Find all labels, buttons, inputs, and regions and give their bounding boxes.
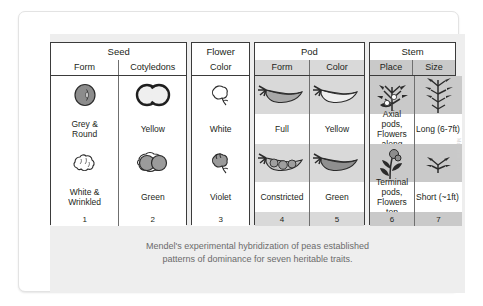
trait-label-short-stem: Short (~1ft)	[415, 182, 462, 212]
figure-caption: Mendel's experimental hybridization of p…	[50, 240, 465, 266]
violet-flower-icon	[192, 144, 249, 182]
subheader-stem-size: Size	[412, 60, 455, 75]
yellow-cotyledons-icon	[119, 76, 186, 114]
figure-card: Seed Form Cotyledons Gr	[18, 11, 459, 292]
trait-number-6: 6	[370, 212, 414, 226]
caption-line-2: patterns of dominance for seven heritabl…	[50, 253, 465, 266]
subheader-row-seed: Form Cotyledons	[51, 60, 186, 76]
subheader-seed-cotyledons: Cotyledons	[118, 60, 186, 75]
trait-label-white-flower: White	[192, 114, 249, 144]
trait-column-pod-color: Yellow Green 5	[309, 76, 364, 226]
trait-column-stem-size: Long (6-7ft) Short (~1ft) 7	[414, 76, 462, 226]
trait-group-stem: Stem Place Size	[369, 42, 456, 225]
trait-column-seed-cotyledons: Yellow Green 2	[118, 76, 186, 226]
figure-page: Seed Form Cotyledons Gr	[0, 0, 483, 306]
green-pod-icon	[310, 144, 364, 182]
trait-label-grey-round: Grey & Round	[51, 114, 118, 144]
subheader-seed-form: Form	[51, 60, 118, 75]
short-plant-icon	[415, 144, 462, 182]
trait-group-pod: Pod Form Color Full	[254, 42, 365, 225]
full-pod-icon	[255, 76, 309, 114]
trait-label-white-wrinkled: White & Wrinkled	[51, 182, 118, 212]
subheader-flower-color: Color	[192, 60, 249, 75]
trait-label-long-stem: Long (6-7ft)	[415, 114, 462, 144]
yellow-pod-icon	[310, 76, 364, 114]
tall-plant-icon	[415, 76, 462, 114]
trait-number-3: 3	[192, 212, 249, 226]
group-title-stem: Stem	[370, 43, 455, 60]
group-title-seed: Seed	[51, 43, 186, 60]
trait-label-terminal-pods: Terminal pods, Flowers top	[370, 182, 414, 212]
round-seed-icon	[51, 76, 118, 114]
trait-label-full-pod: Full	[255, 114, 309, 144]
trait-groups: Seed Form Cotyledons Gr	[50, 42, 456, 225]
constricted-pod-icon	[255, 144, 309, 182]
trait-column-seed-form: Grey & Round White & Wrinkled 1	[51, 76, 118, 226]
subheader-row-flower: Color	[192, 60, 249, 76]
trait-label-violet-flower: Violet	[192, 182, 249, 212]
white-flower-icon	[192, 76, 249, 114]
trait-label-axial-pods: Axial pods, Flowers along	[370, 114, 414, 144]
subheader-pod-form: Form	[255, 60, 309, 75]
trait-group-flower: Flower Color White	[191, 42, 250, 225]
group-title-pod: Pod	[255, 43, 364, 60]
group-title-flower: Flower	[192, 43, 249, 60]
trait-number-7: 7	[415, 212, 462, 226]
subheader-row-pod: Form Color	[255, 60, 364, 76]
trait-number-1: 1	[51, 212, 118, 226]
trait-group-seed: Seed Form Cotyledons Gr	[50, 42, 187, 225]
trait-number-5: 5	[310, 212, 364, 226]
green-cotyledons-icon	[119, 144, 186, 182]
subheader-pod-color: Color	[309, 60, 364, 75]
trait-label-yellow-cotyledons: Yellow	[119, 114, 186, 144]
wrinkled-seed-icon	[51, 144, 118, 182]
trait-label-green-pod: Green	[310, 182, 364, 212]
trait-number-2: 2	[119, 212, 186, 226]
caption-line-1: Mendel's experimental hybridization of p…	[50, 240, 465, 253]
trait-number-4: 4	[255, 212, 309, 226]
trait-label-green-cotyledons: Green	[119, 182, 186, 212]
trait-label-constricted-pod: Constricted	[255, 182, 309, 212]
trait-column-stem-place: Axial pods, Flowers along Term	[370, 76, 414, 226]
trait-label-yellow-pod: Yellow	[310, 114, 364, 144]
subheader-row-stem: Place Size	[370, 60, 455, 76]
image-credit: Mariana Ruiz	[456, 138, 462, 150]
subheader-stem-place: Place	[370, 60, 412, 75]
trait-column-flower-color: White Violet 3	[192, 76, 249, 226]
trait-column-pod-form: Full Constricted 4	[255, 76, 309, 226]
